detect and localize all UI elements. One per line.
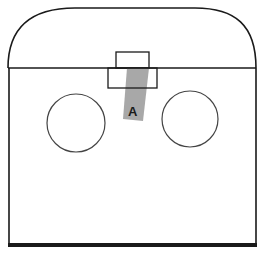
left-circle bbox=[47, 94, 105, 152]
label-a: A bbox=[128, 104, 137, 119]
dome-outline bbox=[8, 8, 256, 68]
diagram-canvas bbox=[0, 0, 265, 254]
base-bar bbox=[8, 243, 257, 247]
upper-tab bbox=[116, 52, 149, 68]
right-circle bbox=[162, 91, 218, 147]
